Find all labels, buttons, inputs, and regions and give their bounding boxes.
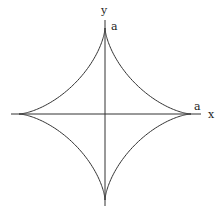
astroid-diagram: y a a x bbox=[0, 0, 217, 210]
x-axis-label: x bbox=[208, 108, 215, 121]
x-intercept-label: a bbox=[194, 100, 201, 113]
y-axis-label: y bbox=[100, 4, 108, 17]
y-intercept-label: a bbox=[111, 20, 118, 33]
